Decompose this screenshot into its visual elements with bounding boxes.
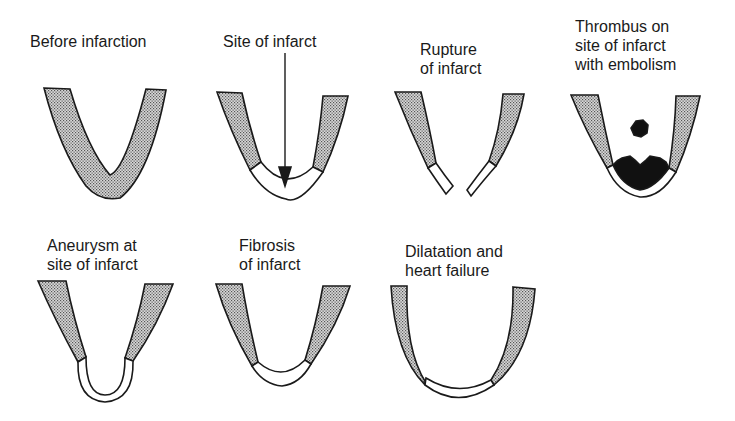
healthy-wall-left <box>571 95 613 168</box>
healthy-wall-right <box>669 96 700 172</box>
label-site-of-infarct: Site of infarct <box>223 32 316 51</box>
healthy-wall-left <box>395 92 436 168</box>
label-rupture: Rupture of infarct <box>420 40 481 78</box>
healthy-wall-left <box>216 284 258 366</box>
panel-fibrosis <box>216 284 350 386</box>
embolus <box>631 120 648 137</box>
healthy-ventricle-wall <box>44 88 166 199</box>
thinned-infarct <box>425 378 494 398</box>
label-fibrosis: Fibrosis of infarct <box>239 236 300 274</box>
healthy-wall-right <box>125 284 173 361</box>
infarct-fragment-right <box>467 161 496 196</box>
infarct-fragment-left <box>428 163 453 194</box>
panel-before-infarction <box>44 88 166 199</box>
panel-dilatation <box>391 286 535 398</box>
healthy-wall-left <box>391 286 426 385</box>
aneurysm-bulge <box>78 357 133 402</box>
panel-thrombus-embolism <box>571 95 700 197</box>
label-dilatation: Dilatation and heart failure <box>405 242 503 280</box>
healthy-wall-right <box>491 287 535 385</box>
panel-rupture <box>395 92 524 196</box>
panel-aneurysm <box>38 281 173 402</box>
panel-site-of-infarct <box>217 53 348 200</box>
healthy-wall-right <box>305 286 350 364</box>
label-aneurysm: Aneurysm at site of infarct <box>47 236 138 274</box>
fibrotic-scar <box>252 360 311 386</box>
healthy-wall-right <box>313 96 348 172</box>
label-before-infarction: Before infarction <box>30 32 147 51</box>
healthy-wall-left <box>217 92 261 170</box>
healthy-wall-left <box>38 281 86 362</box>
label-thrombus-embolism: Thrombus on site of infarct with embolis… <box>575 17 676 74</box>
healthy-wall-right <box>489 94 524 166</box>
